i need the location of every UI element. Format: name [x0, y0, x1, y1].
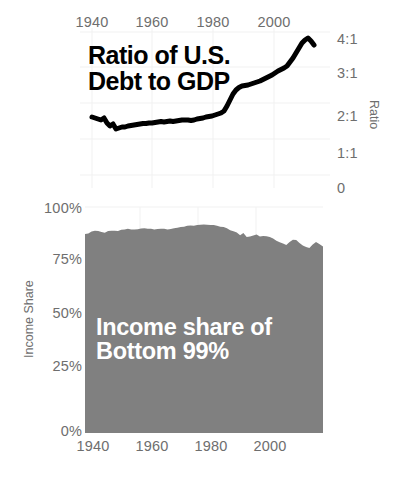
bottom-chart-ytick-100: 100%: [44, 200, 82, 216]
top-chart-ytick-1to1: 1:1: [337, 145, 358, 161]
bottom-chart-xtick-1940: 1940: [76, 438, 109, 454]
bottom-chart-ytick-0: 0%: [61, 423, 82, 439]
bottom-chart-ytick-75: 75%: [52, 251, 82, 267]
top-chart-ytick-2to1: 2:1: [337, 108, 358, 124]
top-chart-ytick-3to1: 3:1: [337, 65, 358, 81]
bottom-chart-axis-title-income-share: Income Share: [22, 280, 36, 358]
bottom-chart-ytick-50: 50%: [52, 305, 82, 321]
bottom-chart-xtick-2000: 2000: [253, 438, 286, 454]
top-chart-ytick-0: 0: [337, 180, 345, 196]
bottom-chart-headline: Income share of Bottom 99%: [96, 315, 272, 364]
debt-gdp-income-share-figure: 1940 1960 1980 2000 4:1 3:1 2:1 1:1 0 Ra…: [0, 0, 398, 478]
bottom-chart-ytick-25: 25%: [52, 358, 82, 374]
top-chart-headline: Ratio of U.S. Debt to GDP: [88, 42, 230, 94]
bottom-chart-xtick-1960: 1960: [135, 438, 168, 454]
bottom-chart-xtick-1980: 1980: [194, 438, 227, 454]
top-chart-axis-title-ratio: Ratio: [367, 100, 381, 129]
top-chart-ytick-4to1: 4:1: [337, 31, 358, 47]
